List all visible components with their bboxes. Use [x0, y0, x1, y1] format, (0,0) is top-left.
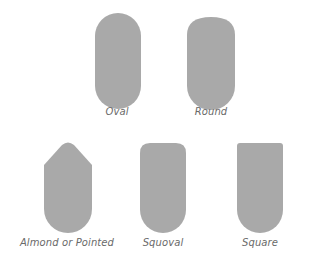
- oval-nail-shape: [95, 13, 141, 109]
- round-label: Round: [195, 106, 228, 117]
- squoval-nail-shape: [140, 143, 186, 233]
- square-nail-shape: [237, 143, 283, 233]
- squoval-label: Squoval: [143, 237, 184, 248]
- round-nail-shape: [187, 17, 235, 110]
- square-label: Square: [242, 237, 278, 248]
- oval-label: Oval: [105, 106, 128, 117]
- almond-nail-shape: [44, 142, 92, 233]
- almond-label: Almond or Pointed: [20, 237, 114, 248]
